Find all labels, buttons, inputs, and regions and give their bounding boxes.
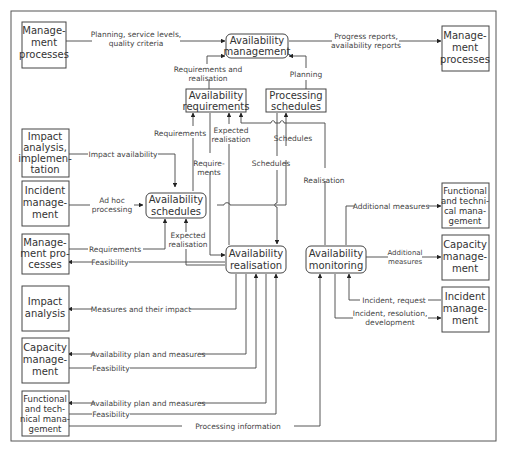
box-availability-requirements: Availabilityrequirements	[183, 89, 250, 112]
label-measures-and-their-impact: Measures and their impact	[91, 305, 191, 314]
box-management-processes-top-right: Manage-mentprocesses	[440, 26, 490, 71]
svg-text:Availabilitymanagement: Availabilitymanagement	[224, 35, 291, 57]
box-incident-management-left: Incidentmanage-ment	[22, 181, 69, 226]
box-capacity-management-right: Capacitymanage-ment	[442, 235, 489, 280]
label-feasibility-3: Feasibility	[92, 410, 130, 419]
box-availability-realisation: Availabilityrealisation	[226, 246, 286, 273]
box-availability-management: Availabilitymanagement	[224, 34, 291, 58]
label-processing-information: Processing information	[195, 422, 281, 431]
label-requirements-mid: Requirements	[89, 245, 141, 254]
label-schedules-a: Schedules	[274, 134, 312, 143]
box-functional-technical-management-left: Functionaland tech-nical mana-gement	[20, 391, 70, 436]
svg-text:Processingschedules: Processingschedules	[269, 90, 322, 112]
box-management-processes-mid-left: Manage-ment pro-cesses	[20, 234, 70, 274]
label-requirements-up: Requirements	[154, 129, 206, 138]
availability-management-diagram: Manage-mentprocesses Manage-mentprocesse…	[0, 0, 506, 454]
label-progress-reports: Progress reports,availability reports	[331, 32, 401, 50]
box-impact-analysis-implementation: Impactanalysis,implemen-tation	[18, 129, 72, 177]
box-management-processes-top-left: Manage-mentprocesses	[19, 22, 69, 68]
label-availability-plan-2: Availability plan and measures	[91, 399, 206, 408]
svg-text:Availabilityrequirements: Availabilityrequirements	[183, 90, 250, 112]
label-ad-hoc-processing: Ad hocprocessing	[92, 196, 133, 214]
label-expected-realisation-top: Expectedrealisation	[211, 126, 250, 144]
label-planning: Planning	[290, 70, 323, 79]
svg-text:Availabilityschedules: Availabilityschedules	[149, 194, 204, 217]
label-realisation: Realisation	[303, 176, 344, 185]
svg-text:Availabilitymonitoring: Availabilitymonitoring	[309, 248, 364, 271]
label-require-ments: Require-ments	[193, 159, 225, 177]
label-planning-service-levels: Planning, service levels,quality criteri…	[91, 30, 181, 48]
diagram-frame	[11, 11, 496, 441]
label-feasibility-1: Feasibility	[91, 258, 129, 267]
label-impact-availability: Impact availability	[88, 150, 158, 159]
box-functional-technical-management-right: Functionaland techni-cal mana-gement	[441, 183, 489, 228]
label-availability-plan-1: Availability plan and measures	[91, 350, 206, 359]
label-additional-measures-2: Additionalmeasures	[387, 249, 422, 266]
box-impact-analysis: Impactanalysis	[22, 286, 69, 331]
box-processing-schedules: Processingschedules	[266, 89, 326, 112]
box-availability-monitoring: Availabilitymonitoring	[306, 246, 366, 273]
box-incident-management-right: Incidentmanage-ment	[442, 287, 489, 332]
svg-text:Impactanalysis: Impactanalysis	[25, 296, 66, 319]
label-incident-resolution: Incident, resolution,development	[353, 309, 428, 327]
svg-text:Availabilityrealisation: Availabilityrealisation	[229, 248, 284, 271]
label-additional-measures-1: Additional measures	[353, 202, 430, 211]
label-feasibility-2: Feasibility	[92, 364, 130, 373]
box-capacity-management-left: Capacitymanage-ment	[22, 338, 69, 383]
label-incident-request: Incident, request	[362, 296, 426, 305]
label-schedules-b: Schedules	[252, 159, 290, 168]
label-requirements-and-realisation: Requirements andrealisation	[174, 65, 243, 83]
label-expected-realisation-mid: Expectedrealisation	[168, 231, 207, 249]
box-availability-schedules: Availabilityschedules	[146, 193, 206, 218]
